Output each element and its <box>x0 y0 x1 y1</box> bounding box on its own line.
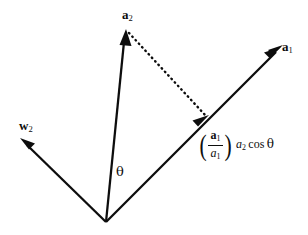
vector-a2-arrowhead <box>120 29 132 46</box>
vector-a2 <box>106 29 132 222</box>
label-w2-symbol: w <box>19 118 28 133</box>
projection-expression: ( a1 a1 ) a2 cos θ <box>198 128 274 162</box>
paren-close: ) <box>224 133 231 156</box>
perpendicular-dotted-line <box>129 33 206 116</box>
fraction-numerator: a1 <box>209 129 223 145</box>
label-theta: θ <box>116 165 124 178</box>
numerator-subscript: 1 <box>217 134 221 143</box>
angle-theta: θ <box>267 137 274 151</box>
label-a1: a1 <box>282 40 293 55</box>
unit-vector-fraction: a1 a1 <box>208 129 223 161</box>
vector-a2-shaft <box>106 42 124 222</box>
label-a2: a2 <box>122 8 133 23</box>
label-a2-subscript: 2 <box>129 13 133 23</box>
paren-open: ( <box>199 133 206 156</box>
vector-w2-shaft <box>27 145 106 222</box>
label-w2: w2 <box>19 119 33 134</box>
vector-w2-arrowhead <box>20 138 35 150</box>
denominator-subscript: 1 <box>217 152 221 161</box>
vector-projection-figure <box>0 0 308 235</box>
cos-text: cos <box>248 137 264 151</box>
fraction-denominator: a1 <box>209 146 223 162</box>
projection-tail: a2 cos θ <box>236 138 274 152</box>
vector-w2 <box>20 138 106 222</box>
label-w2-subscript: 2 <box>28 124 32 134</box>
label-a1-subscript: 1 <box>289 45 293 55</box>
